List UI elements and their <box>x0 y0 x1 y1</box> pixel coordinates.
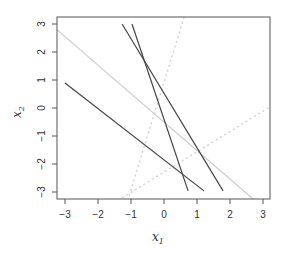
x-tick-label: −2 <box>92 209 104 220</box>
y-tick-label: 3 <box>36 21 47 27</box>
chart: −3−2−10123 −3−2−10123 x1 x2 <box>0 0 284 254</box>
x-tick-label: 0 <box>161 209 167 220</box>
x-tick-label: 2 <box>227 209 233 220</box>
y-tick-label: −1 <box>36 130 47 142</box>
y-tick-label: 0 <box>36 105 47 111</box>
y-tick-label: −3 <box>36 186 47 198</box>
x-tick-label: 3 <box>260 209 266 220</box>
x-tick-label: 1 <box>194 209 200 220</box>
y-tick-label: 1 <box>36 77 47 83</box>
dotted-steep-line <box>128 17 184 199</box>
plot-frame <box>57 17 270 199</box>
y-axis-title-group: x2 <box>10 106 26 118</box>
gray-line <box>57 30 253 199</box>
y-axis: −3−2−10123 <box>36 21 57 198</box>
y-tick-label: −2 <box>36 158 47 170</box>
dark-line-2 <box>132 24 188 191</box>
x-axis-title: x1 <box>152 230 164 246</box>
y-axis-title: x2 <box>10 106 26 118</box>
y-tick-label: 2 <box>36 49 47 55</box>
x-tick-label: −1 <box>125 209 137 220</box>
x-axis: −3−2−10123 <box>59 199 266 220</box>
series-layer <box>57 17 270 199</box>
x-tick-label: −3 <box>59 209 71 220</box>
